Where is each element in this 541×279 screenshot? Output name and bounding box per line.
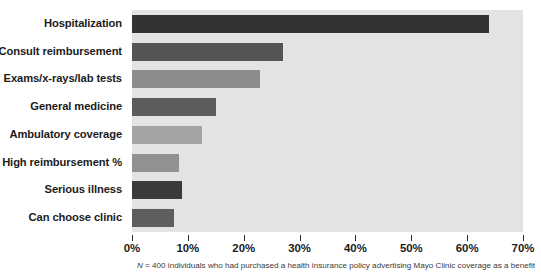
plot-area	[132, 10, 523, 232]
tick-label-70: 70%	[512, 243, 535, 254]
bar-0	[132, 15, 489, 33]
tick-label-50: 50%	[400, 243, 423, 254]
bar-1	[132, 43, 283, 61]
tick-label-10: 10%	[176, 243, 199, 254]
tick-mark-50	[411, 235, 412, 241]
bar-5	[132, 154, 179, 172]
tick-label-60: 60%	[456, 243, 479, 254]
bar-chart-figure: HospitalizationConsult reimbursementExam…	[0, 0, 541, 279]
value-axis: 0%10%20%30%40%50%60%70%	[132, 232, 523, 258]
category-label-2: Exams/x-rays/lab tests	[4, 73, 122, 84]
tick-mark-60	[467, 235, 468, 241]
category-label-5: High reimbursement %	[2, 157, 122, 168]
tick-mark-40	[355, 235, 356, 241]
category-label-3: General medicine	[30, 101, 122, 112]
bar-3	[132, 98, 216, 116]
tick-mark-30	[300, 235, 301, 241]
category-label-1: Consult reimbursement	[0, 46, 122, 57]
caption-text: = 400 individuals who had purchased a he…	[143, 261, 535, 270]
tick-label-30: 30%	[288, 243, 311, 254]
bar-7	[132, 209, 174, 227]
tick-label-20: 20%	[232, 243, 255, 254]
category-label-0: Hospitalization	[44, 18, 122, 29]
bar-4	[132, 126, 202, 144]
category-label-6: Serious illness	[45, 184, 122, 195]
category-label-4: Ambulatory coverage	[10, 129, 123, 140]
tick-label-40: 40%	[344, 243, 367, 254]
tick-mark-70	[523, 235, 524, 241]
bar-6	[132, 181, 182, 199]
chart-caption: N = 400 individuals who had purchased a …	[131, 262, 541, 270]
tick-mark-0	[132, 235, 133, 241]
bar-2	[132, 70, 260, 88]
tick-mark-20	[244, 235, 245, 241]
category-label-7: Can choose clinic	[29, 212, 122, 223]
tick-mark-10	[188, 235, 189, 241]
tick-label-0: 0%	[124, 243, 140, 254]
category-axis-labels: HospitalizationConsult reimbursementExam…	[0, 10, 127, 232]
